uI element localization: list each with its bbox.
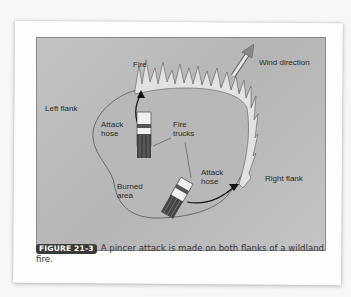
label-attack-hose-left: Attack hose — [101, 120, 131, 138]
figure-caption: FIGURE 21-3A pincer attack is made on bo… — [36, 243, 326, 265]
fire-truck-icon — [137, 112, 151, 158]
label-fire-trucks: Fire trucks — [173, 120, 203, 138]
label-attack-hose-right: Attack hose — [201, 168, 233, 186]
label-left-flank: Left flank — [45, 104, 77, 113]
wind-arrow-icon — [233, 44, 254, 76]
fire-perimeter-illustration — [37, 38, 325, 250]
label-fire: Fire — [133, 60, 147, 69]
label-wind-direction: Wind direction — [259, 58, 310, 67]
label-burned-area: Burned area — [117, 182, 151, 200]
figure-number-badge: FIGURE 21-3 — [36, 244, 97, 254]
wildland-fire-diagram: Fire Wind direction Left flank Attack ho… — [36, 37, 326, 251]
label-right-flank: Right flank — [265, 174, 303, 183]
